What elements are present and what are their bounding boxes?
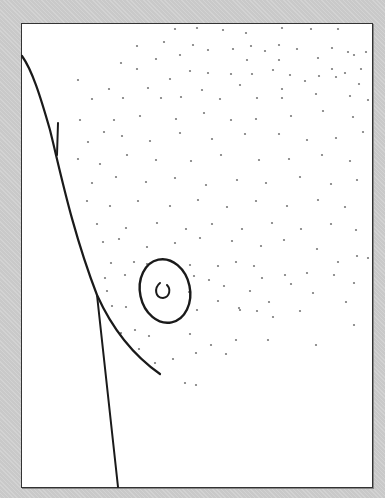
shading-dot <box>134 329 136 331</box>
shading-dot <box>217 265 219 267</box>
shading-dot <box>312 292 314 294</box>
shading-dot <box>163 41 165 43</box>
shading-dot <box>96 223 98 225</box>
shaded-region-dots <box>77 27 369 386</box>
shading-dot <box>239 84 241 86</box>
shading-dot <box>353 324 355 326</box>
shading-dot <box>249 290 251 292</box>
shading-dot <box>264 50 266 52</box>
shading-dot <box>316 248 318 250</box>
shading-dot <box>169 205 171 207</box>
shading-dot <box>147 87 149 89</box>
shading-dot <box>156 222 158 224</box>
shading-dot <box>258 159 260 161</box>
shading-dot <box>193 275 195 277</box>
shading-dot <box>210 344 212 346</box>
shading-dot <box>102 241 104 243</box>
shading-dot <box>288 158 290 160</box>
shading-dot <box>367 99 369 101</box>
shading-dot <box>261 277 263 279</box>
shading-dot <box>253 265 255 267</box>
shading-dot <box>236 179 238 181</box>
shading-dot <box>278 133 280 135</box>
shading-dot <box>235 261 237 263</box>
shading-dot <box>111 305 113 307</box>
shading-dot <box>205 184 207 186</box>
shading-dot <box>211 138 213 140</box>
shading-dot <box>190 160 192 162</box>
shading-dot <box>160 97 162 99</box>
shading-dot <box>77 79 79 81</box>
shading-dot <box>184 382 186 384</box>
shading-dot <box>137 200 139 202</box>
shading-dot <box>337 28 339 30</box>
shading-dot <box>330 183 332 185</box>
shading-dot <box>125 306 127 308</box>
shading-dot <box>109 205 111 207</box>
shading-dot <box>353 54 355 56</box>
shading-dot <box>281 27 283 29</box>
shading-dot <box>246 59 248 61</box>
shading-dot <box>220 154 222 156</box>
shading-dot <box>136 45 138 47</box>
shading-dot <box>278 44 280 46</box>
shading-dot <box>148 335 150 337</box>
shading-dot <box>115 176 117 178</box>
shading-dot <box>283 239 285 241</box>
shading-dot <box>239 309 241 311</box>
shading-dot <box>290 283 292 285</box>
shading-dot <box>284 274 286 276</box>
shading-dot <box>296 48 298 50</box>
shading-dot <box>267 339 269 341</box>
shading-dot <box>367 257 369 259</box>
shading-dot <box>286 205 288 207</box>
shading-dot <box>353 282 355 284</box>
shading-dot <box>230 119 232 121</box>
shading-dot <box>139 115 141 117</box>
shading-dot <box>260 245 262 247</box>
body-contour-line <box>22 56 160 374</box>
shading-dot <box>356 255 358 257</box>
shading-dot <box>197 199 199 201</box>
shading-dot <box>231 240 233 242</box>
shading-dot <box>179 132 181 134</box>
shading-dot <box>136 68 138 70</box>
shading-dot <box>86 200 88 202</box>
shading-dot <box>315 93 317 95</box>
shading-dot <box>207 72 209 74</box>
shading-dot <box>245 32 247 34</box>
shading-dot <box>133 261 135 263</box>
shading-dot <box>207 49 209 51</box>
shading-dot <box>333 274 335 276</box>
shading-dot <box>256 97 258 99</box>
shading-dot <box>352 116 354 118</box>
shading-dot <box>99 163 101 165</box>
shading-dot <box>356 179 358 181</box>
shading-dot <box>330 223 332 225</box>
shading-dot <box>318 75 320 77</box>
shading-dot <box>203 112 205 114</box>
shading-dot <box>122 97 124 99</box>
shading-dot <box>238 307 240 309</box>
shading-dot <box>175 118 177 120</box>
shading-dot <box>337 261 339 263</box>
shading-dot <box>104 277 106 279</box>
shading-dot <box>208 279 210 281</box>
shading-dot <box>244 133 246 135</box>
areola-outline <box>134 255 196 328</box>
shading-dot <box>154 362 156 364</box>
shading-dot <box>189 264 191 266</box>
shading-dot <box>91 98 93 100</box>
shading-dot <box>335 137 337 139</box>
shading-dot <box>113 119 115 121</box>
shading-dot <box>362 131 364 133</box>
shading-dot <box>272 69 274 71</box>
shading-dot <box>250 45 252 47</box>
shading-dot <box>223 285 225 287</box>
shading-dot <box>126 154 128 156</box>
shading-dot <box>355 229 357 231</box>
shading-dot <box>315 344 317 346</box>
shading-dot <box>317 199 319 201</box>
shading-dot <box>331 68 333 70</box>
shading-dot <box>299 176 301 178</box>
